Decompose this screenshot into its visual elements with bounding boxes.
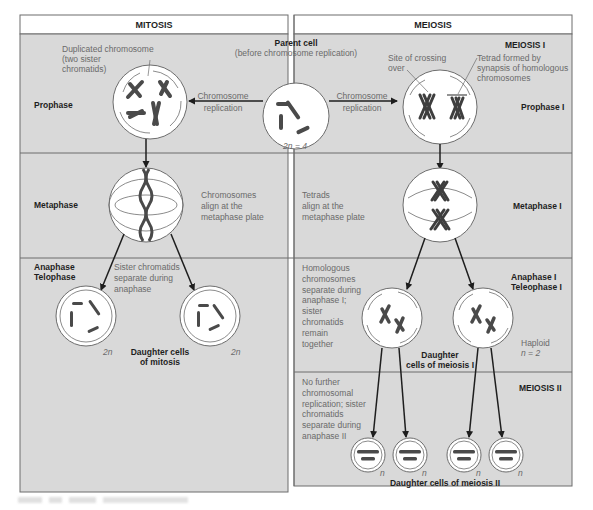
mitosis-meiosis-diagram: MITOSIS MEIOSIS Parent cell (before chro…: [0, 0, 593, 510]
stage-label-metaphase-1: Metaphase I: [513, 201, 562, 212]
meiosis1-daughter-label-2: cells of meiosis I: [395, 360, 485, 371]
meiosis-metaphase1-cell: [403, 168, 477, 242]
mitosis-daughter-cell-left: [56, 286, 116, 346]
crossing-over-note-1: Site of crossing: [388, 53, 446, 64]
tetrad-note-3: chromosomes: [477, 73, 530, 84]
stage-label-telophase: Telophase: [34, 272, 75, 283]
duplicated-chromosome-note-3: chromatids): [62, 64, 106, 75]
meiosis2-ploidy-1: n: [380, 468, 385, 479]
parent-cell-ploidy: 2n = 4: [270, 141, 320, 152]
anaphase-note-3: anaphase: [114, 284, 151, 295]
tetrad-note-2: synapsis of homologous: [477, 63, 568, 74]
anaphase1-note-line: anaphase I;: [302, 295, 361, 306]
meiosis2-note-line: No further: [302, 377, 366, 388]
meiosis2-note-line: anaphase II: [302, 431, 366, 442]
stage-label-metaphase: Metaphase: [34, 200, 78, 211]
crossing-over-note-2: over: [388, 63, 405, 74]
anaphase1-note-line: sister: [302, 306, 361, 317]
mitosis-header: MITOSIS: [20, 20, 288, 31]
meiosis2-note-line: chromatids: [302, 409, 366, 420]
mitosis-arrow-label-1: Chromosome: [192, 91, 254, 102]
anaphase1-note-line: separate during: [302, 285, 361, 296]
meiosis2-note-line: separate during: [302, 420, 366, 431]
anaphase1-note-line: Homologous: [302, 263, 361, 274]
tetrad-note-1: Tetrad formed by: [477, 53, 541, 64]
metaphase-note-1: Chromosomes: [201, 190, 256, 201]
anaphase1-note-line: together: [302, 339, 361, 350]
meiosis2-note: No further chromosomal replication; sist…: [302, 377, 366, 442]
meiosis2-ploidy-3: n: [476, 468, 481, 479]
haploid-label: Haploid: [521, 338, 550, 349]
metaphase1-note-3: metaphase plate: [302, 212, 365, 223]
meiosis1-daughter-cell-left: [362, 288, 422, 348]
parent-cell-title: Parent cell: [236, 38, 356, 49]
meiosis2-note-line: chromosomal: [302, 388, 366, 399]
anaphase1-note-line: chromosomes: [302, 274, 361, 285]
meiosis2-label: MEIOSIS II: [519, 383, 562, 394]
mitosis-daughter-cell-right: [180, 286, 240, 346]
meiosis2-daughter-label: Daughter cells of meiosis II: [360, 478, 530, 489]
meiosis1-label: MEIOSIS I: [505, 40, 545, 51]
meiosis-arrow-label-2: replication: [331, 103, 393, 114]
figure-caption-blurred: [18, 497, 188, 503]
anaphase1-note-line: chromatids: [302, 317, 361, 328]
anaphase1-note: Homologous chromosomes separate during a…: [302, 263, 361, 349]
mitosis-left-ploidy: 2n: [103, 347, 112, 358]
meiosis-header: MEIOSIS: [294, 20, 572, 31]
mitosis-arrow-label-2: replication: [192, 103, 254, 114]
stage-label-anaphase: Anaphase: [34, 262, 75, 273]
metaphase-note-2: align at the: [201, 201, 243, 212]
meiosis1-daughter-label-1: Daughter: [400, 350, 480, 361]
stage-label-telophase-1: Teleophase I: [511, 282, 562, 293]
mitosis-right-ploidy: 2n: [231, 347, 240, 358]
duplicated-chromosome-note-1: Duplicated chromosome: [62, 44, 154, 55]
stage-label-prophase-1: Prophase I: [521, 102, 564, 113]
haploid-value: n = 2: [521, 348, 540, 359]
meiosis2-ploidy-2: n: [422, 468, 427, 479]
metaphase-note-3: metaphase plate: [201, 212, 264, 223]
mitosis-metaphase-cell: [109, 168, 183, 242]
stage-label-anaphase-1: Anaphase I: [511, 272, 556, 283]
meiosis2-ploidy-4: n: [518, 468, 523, 479]
anaphase1-note-line: remain: [302, 328, 361, 339]
meiosis1-daughter-cell-right: [453, 288, 513, 348]
metaphase1-note-2: align at the: [302, 201, 344, 212]
anaphase-note-2: separate during: [114, 273, 173, 284]
anaphase-note-1: Sister chromatids: [114, 262, 180, 273]
duplicated-chromosome-note-2: (two sister: [62, 54, 101, 65]
mitosis-daughter-label-1: Daughter cells: [115, 347, 205, 358]
parent-cell-subtitle: (before chromosome replication): [216, 48, 376, 59]
meiosis2-note-line: replication; sister: [302, 399, 366, 410]
meiosis-arrow-label-1: Chromosome: [331, 91, 393, 102]
metaphase1-note-1: Tetrads: [302, 190, 330, 201]
mitosis-daughter-label-2: of mitosis: [115, 357, 205, 368]
stage-label-prophase: Prophase: [34, 100, 73, 111]
